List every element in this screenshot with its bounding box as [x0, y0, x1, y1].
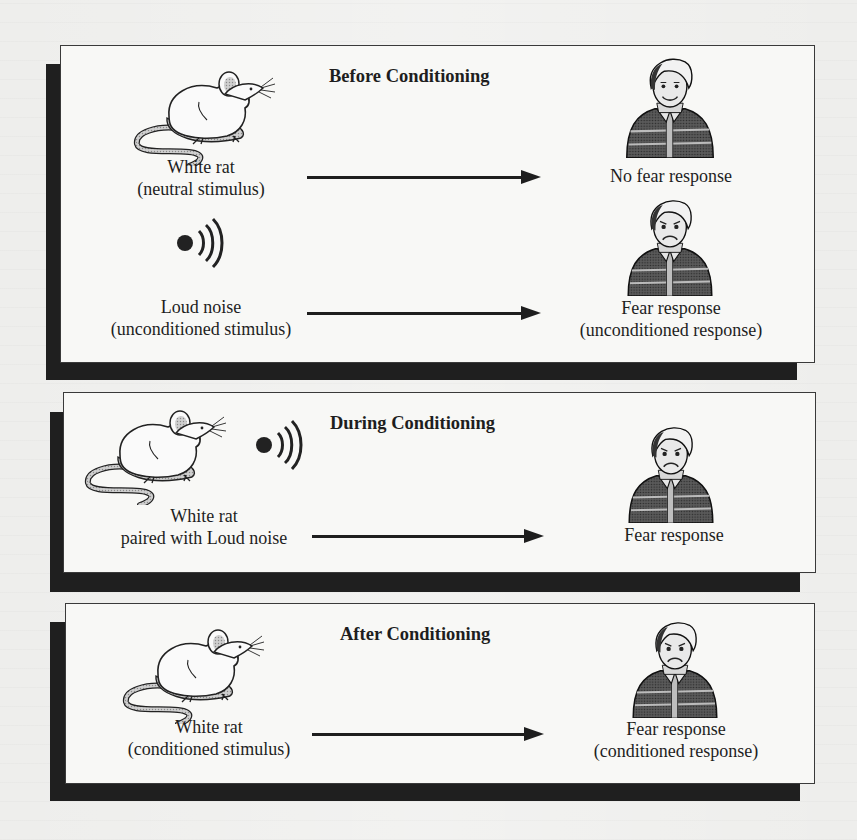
- arrow-icon: [312, 728, 544, 740]
- rat-icon: [118, 624, 268, 724]
- panel-during-conditioning: During Conditioning White rat paired wit…: [63, 392, 816, 573]
- calm-boy-icon: [623, 54, 717, 158]
- panel-title: Before Conditioning: [329, 66, 490, 87]
- stimulus-label: White rat (neutral stimulus): [101, 156, 301, 200]
- loud-noise-icon: [252, 413, 312, 473]
- fearful-boy-icon: [624, 423, 718, 523]
- arrow-icon: [312, 530, 544, 542]
- panel-title: During Conditioning: [330, 413, 495, 434]
- stimulus-label: Loud noise (unconditioned stimulus): [71, 296, 331, 340]
- response-label: Fear response: [559, 524, 789, 546]
- rat-icon: [129, 66, 279, 166]
- rat-icon: [80, 405, 230, 505]
- panel-before-conditioning: Before Conditioning White rat (neutral s…: [60, 45, 815, 363]
- arrow-icon: [307, 307, 541, 319]
- arrow-icon: [307, 171, 541, 183]
- loud-noise-icon: [173, 211, 233, 271]
- stimulus-label: White rat paired with Loud noise: [104, 505, 304, 549]
- response-label: Fear response (conditioned response): [561, 718, 791, 762]
- response-label: Fear response (unconditioned response): [551, 297, 791, 341]
- fearful-boy-icon: [628, 618, 722, 718]
- stimulus-label: White rat (conditioned stimulus): [84, 716, 334, 760]
- fearful-boy-icon: [623, 196, 717, 296]
- response-label: No fear response: [556, 165, 786, 187]
- panel-title: After Conditioning: [340, 624, 490, 645]
- panel-after-conditioning: After Conditioning White rat (conditione…: [65, 603, 815, 784]
